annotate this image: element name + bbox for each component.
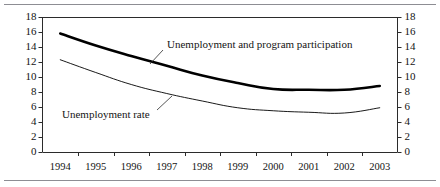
x-axis-tick-label: 1998: [182, 161, 222, 172]
x-axis-tick-label: 1995: [76, 161, 116, 172]
plot-area: [0, 0, 440, 187]
x-axis-tick-label: 1994: [40, 161, 80, 172]
y-axis-left-tick-label: 18: [19, 11, 37, 22]
y-axis-left-tick-label: 0: [19, 146, 37, 157]
chart-figure: 024681012141618 024681012141618 19941995…: [0, 0, 440, 187]
y-axis-right-tick-label: 12: [405, 56, 423, 67]
y-axis-right-tick-label: 2: [405, 131, 423, 142]
y-axis-right-tick-label: 4: [405, 116, 423, 127]
x-axis-tick-label: 2001: [289, 161, 329, 172]
annotation-leader-lines: [150, 50, 172, 110]
y-axis-right-tick-label: 8: [405, 86, 423, 97]
y-axis-right-ticks: [398, 18, 402, 153]
y-axis-right-tick-label: 16: [405, 26, 423, 37]
x-axis-tick-label: 1997: [147, 161, 187, 172]
y-axis-right-tick-label: 6: [405, 101, 423, 112]
y-axis-left-tick-label: 8: [19, 86, 37, 97]
y-axis-right-tick-label: 18: [405, 11, 423, 22]
y-axis-left-ticks: [39, 18, 43, 153]
series-label-unemployment-and-program-participation: Unemployment and program participation: [167, 38, 352, 50]
y-axis-left-tick-label: 6: [19, 101, 37, 112]
y-axis-left-tick-label: 14: [19, 41, 37, 52]
y-axis-right-tick-label: 14: [405, 41, 423, 52]
x-axis-tick-label: 2003: [360, 161, 400, 172]
series-label-unemployment-rate: Unemployment rate: [62, 108, 150, 120]
x-axis-tick-label: 1999: [218, 161, 258, 172]
x-axis-tick-label: 2000: [253, 161, 293, 172]
leader-line-unrate: [157, 96, 172, 110]
y-axis-left-tick-label: 4: [19, 116, 37, 127]
y-axis-left-tick-label: 10: [19, 71, 37, 82]
y-axis-left-tick-label: 2: [19, 131, 37, 142]
series-line-thin: [60, 60, 380, 114]
y-axis-left-tick-label: 12: [19, 56, 37, 67]
y-axis-left-tick-label: 16: [19, 26, 37, 37]
x-axis-tick-label: 2002: [324, 161, 364, 172]
y-axis-right-tick-label: 10: [405, 71, 423, 82]
x-axis-tick-label: 1996: [111, 161, 151, 172]
y-axis-right-tick-label: 0: [405, 146, 423, 157]
